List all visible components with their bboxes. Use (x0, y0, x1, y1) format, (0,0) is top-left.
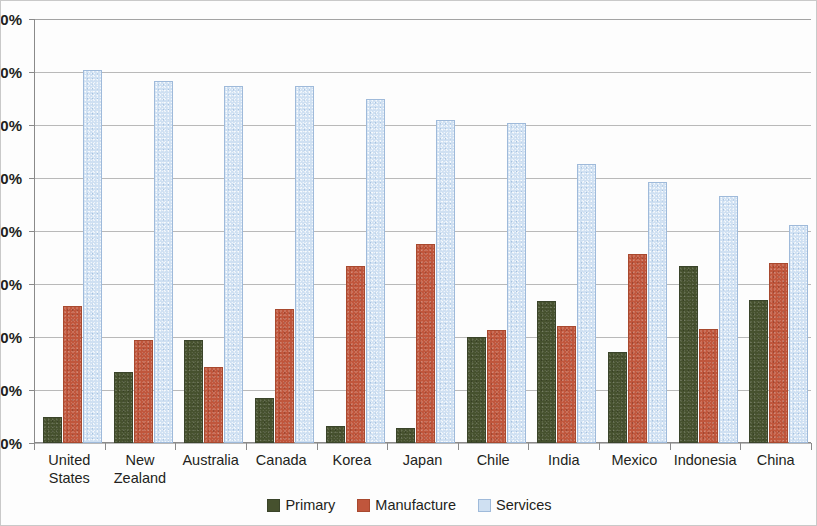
bar-primary (749, 300, 768, 443)
x-axis-label: Canada (246, 451, 317, 487)
bar-services (789, 225, 808, 443)
legend-swatch-manufacture-icon (357, 499, 370, 512)
legend-swatch-services-icon (478, 499, 491, 512)
bar-manufacture (63, 306, 82, 443)
bar-services (648, 182, 667, 443)
x-axis-tick (105, 443, 106, 450)
bar-services (154, 81, 173, 443)
y-axis-tick-label: 40% (0, 223, 22, 240)
legend-swatch-primary-icon (267, 499, 280, 512)
x-axis-label: China (740, 451, 811, 487)
bar-manufacture (487, 330, 506, 443)
bar-group (670, 19, 741, 443)
bar-primary (537, 301, 556, 443)
x-axis-tick (458, 443, 459, 450)
x-axis-tick (387, 443, 388, 450)
bar-group (740, 19, 811, 443)
bar-group (599, 19, 670, 443)
bar-primary (43, 417, 62, 443)
legend-item-manufacture[interactable]: Manufacture (357, 497, 456, 513)
x-axis-tick (246, 443, 247, 450)
y-axis-tick-label: 50% (0, 170, 22, 187)
x-axis-labels: United StatesNew ZealandAustraliaCanadaK… (34, 451, 811, 487)
x-axis-ticks (34, 443, 811, 450)
bar-manufacture (557, 326, 576, 443)
bar-services (224, 86, 243, 443)
bar-group (246, 19, 317, 443)
y-axis-tick-label: 70% (0, 64, 22, 81)
bar-manufacture (346, 266, 365, 443)
bar-manufacture (769, 263, 788, 443)
y-axis-tick-label: 60% (0, 117, 22, 134)
bar-services (577, 164, 596, 443)
legend-label: Manufacture (375, 497, 456, 513)
legend-label: Services (496, 497, 552, 513)
bar-primary (396, 428, 415, 443)
bar-primary (679, 266, 698, 443)
bar-services (83, 70, 102, 443)
bar-services (366, 99, 385, 443)
bar-group (34, 19, 105, 443)
bar-services (436, 120, 455, 443)
bar-manufacture (628, 254, 647, 443)
y-axis-tick-label: 20% (0, 329, 22, 346)
x-axis-tick (740, 443, 741, 450)
legend-item-primary[interactable]: Primary (267, 497, 335, 513)
x-axis-tick (811, 443, 812, 450)
x-axis-tick (528, 443, 529, 450)
x-axis-label: Chile (458, 451, 529, 487)
x-axis-tick (670, 443, 671, 450)
y-axis-tick-label: 10% (0, 382, 22, 399)
x-axis-tick (317, 443, 318, 450)
x-axis-label: Japan (387, 451, 458, 487)
x-axis-label: India (528, 451, 599, 487)
bar-manufacture (275, 309, 294, 444)
bar-group (458, 19, 529, 443)
x-axis-label: United States (34, 451, 105, 487)
y-axis-tick-label: 0% (0, 435, 22, 452)
bar-manufacture (134, 340, 153, 443)
x-axis-tick (599, 443, 600, 450)
legend-item-services[interactable]: Services (478, 497, 552, 513)
x-axis-label: Mexico (599, 451, 670, 487)
bar-primary (326, 426, 345, 443)
bar-services (295, 86, 314, 443)
bar-primary (467, 337, 486, 443)
x-axis-label: Australia (175, 451, 246, 487)
y-axis-tick-label: 80% (0, 11, 22, 28)
bar-group (387, 19, 458, 443)
bar-primary (184, 340, 203, 443)
bar-group (528, 19, 599, 443)
chart-legend: PrimaryManufactureServices (1, 497, 817, 513)
x-axis-label: Indonesia (670, 451, 741, 487)
bar-groups (34, 19, 811, 443)
bar-services (719, 196, 738, 443)
bar-primary (255, 398, 274, 443)
bar-manufacture (699, 329, 718, 443)
bar-group (317, 19, 388, 443)
x-axis-label: Korea (317, 451, 388, 487)
bar-manufacture (204, 367, 223, 443)
x-axis-label: New Zealand (105, 451, 176, 487)
bar-group (105, 19, 176, 443)
bar-services (507, 123, 526, 443)
x-axis-tick (34, 443, 35, 450)
bar-chart: 0%10%20%30%40%50%60%70%80% United States… (0, 0, 817, 526)
bar-group (175, 19, 246, 443)
bar-primary (114, 372, 133, 443)
y-axis-tick-label: 30% (0, 276, 22, 293)
legend-label: Primary (285, 497, 335, 513)
x-axis-tick (175, 443, 176, 450)
bar-manufacture (416, 244, 435, 443)
bar-primary (608, 352, 627, 443)
